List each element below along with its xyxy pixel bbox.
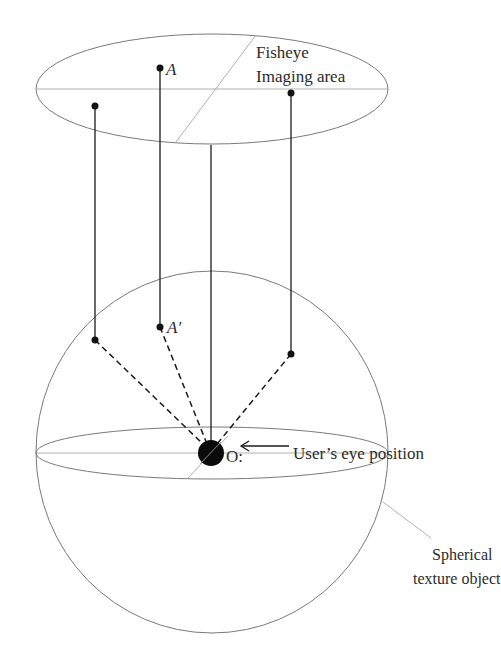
imaging-point-left	[92, 103, 99, 110]
fisheye-projection-diagram: Fisheye Imaging area A A′ O: User’s eye …	[0, 0, 501, 653]
imaging-area-label-line2: Imaging area	[256, 67, 346, 86]
ray-left	[95, 340, 205, 446]
point-a-prime-label: A′	[166, 318, 181, 337]
imaging-point-right	[288, 90, 295, 97]
ray-right	[217, 354, 291, 444]
point-a-label: A	[165, 60, 177, 79]
origin-label: O:	[226, 447, 243, 466]
sphere-label-leader	[383, 502, 431, 538]
sphere-label-line2: texture object	[413, 570, 501, 588]
sphere-point-right	[288, 351, 295, 358]
imaging-point-a	[157, 65, 164, 72]
sphere-point-left	[92, 337, 99, 344]
imaging-area-label-line1: Fisheye	[256, 43, 309, 62]
sphere-point-a-prime	[157, 324, 164, 331]
ray-a-prime	[160, 327, 207, 444]
imaging-diagonal-axis	[176, 35, 256, 142]
eye-position-label: User’s eye position	[293, 444, 424, 463]
sphere-label-line1: Spherical	[432, 546, 493, 564]
